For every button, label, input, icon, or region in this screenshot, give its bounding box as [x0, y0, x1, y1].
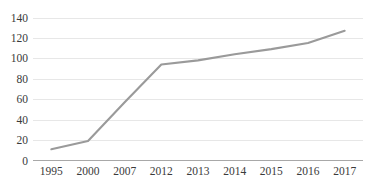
y-axis-tick-label: 120 — [11, 32, 29, 44]
y-axis-tick-labels: 020406080100120140 — [11, 12, 29, 167]
y-axis-tick-label: 100 — [11, 52, 29, 64]
x-axis-tick-label: 2007 — [113, 165, 136, 177]
x-axis-tick-label: 2017 — [333, 165, 356, 177]
data-series-line — [51, 31, 344, 149]
x-axis-tick-label: 1995 — [40, 165, 63, 177]
x-axis-tick-label: 2013 — [187, 165, 210, 177]
gridlines — [33, 19, 363, 141]
x-axis-tick-label: 2000 — [77, 165, 100, 177]
x-axis-tick-labels: 199520002007201220132014201520162017 — [40, 165, 357, 177]
x-axis-tick-label: 2016 — [297, 165, 320, 177]
y-axis-tick-label: 80 — [17, 73, 29, 85]
x-axis-tick-label: 2014 — [223, 165, 246, 177]
chart-canvas: 020406080100120140 199520002007201220132… — [0, 0, 369, 190]
y-axis-tick-label: 0 — [22, 155, 28, 167]
y-axis-tick-label: 40 — [17, 114, 29, 126]
x-axis-tick-label: 2015 — [260, 165, 283, 177]
y-axis-tick-label: 140 — [11, 12, 29, 24]
x-axis-tick-label: 2012 — [150, 165, 173, 177]
line-chart: 020406080100120140 199520002007201220132… — [0, 0, 369, 190]
y-axis-tick-label: 60 — [17, 93, 29, 105]
y-axis-tick-label: 20 — [17, 134, 29, 146]
